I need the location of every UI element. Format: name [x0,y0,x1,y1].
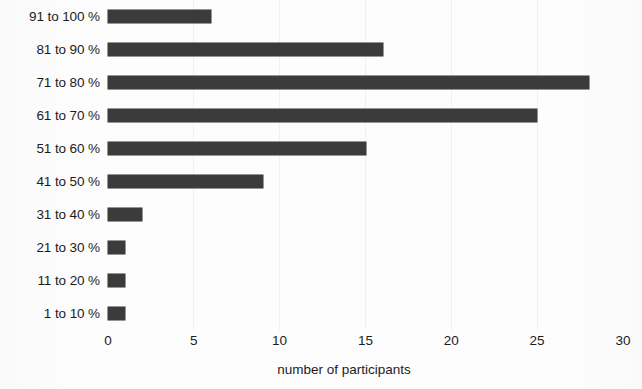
y-axis-tick-label: 21 to 30 % [0,241,100,254]
plot-area [108,0,623,330]
x-axis-tick-label: 25 [530,333,545,349]
y-axis-tick-label: 11 to 20 % [0,274,100,287]
x-axis-tick-label: 0 [104,333,112,349]
bar-row [108,0,623,33]
x-axis-title-text: number of participants [277,362,411,377]
y-axis-tick-label: 1 to 10 % [0,307,100,320]
x-axis-tick-label: 15 [358,333,373,349]
bar-chart-figure: 91 to 100 % 81 to 90 % 71 to 80 % 61 to … [0,0,642,389]
bar [108,43,383,56]
bar [108,241,125,254]
bar [108,76,589,89]
bar-row [108,165,623,198]
x-axis-tick-label: 10 [272,333,287,349]
bar [108,274,125,287]
y-axis-tick-label: 71 to 80 % [0,76,100,89]
bar-row [108,198,623,231]
x-axis-tick-label: 5 [190,333,198,349]
bar [108,142,366,155]
x-axis-tick-label: 20 [444,333,459,349]
bar [108,175,263,188]
bar-row [108,297,623,330]
y-axis-tick-label: 81 to 90 % [0,43,100,56]
x-axis-labels: 0 5 10 15 20 25 30 [108,333,623,353]
y-axis-tick-label: 41 to 50 % [0,175,100,188]
x-axis-tick-label: 30 [615,333,630,349]
bar-row [108,66,623,99]
bar [108,109,537,122]
y-axis-labels: 91 to 100 % 81 to 90 % 71 to 80 % 61 to … [0,0,100,330]
bar [108,208,142,221]
bar-row [108,231,623,264]
bar [108,10,211,23]
bar-row [108,99,623,132]
bar-row [108,33,623,66]
y-axis-tick-label: 31 to 40 % [0,208,100,221]
y-axis-tick-label: 51 to 60 % [0,142,100,155]
bar-row [108,264,623,297]
x-axis-title: number of participants [0,362,642,377]
bar-row [108,132,623,165]
y-axis-tick-label: 91 to 100 % [0,10,100,23]
y-axis-tick-label: 61 to 70 % [0,109,100,122]
bar [108,307,125,320]
